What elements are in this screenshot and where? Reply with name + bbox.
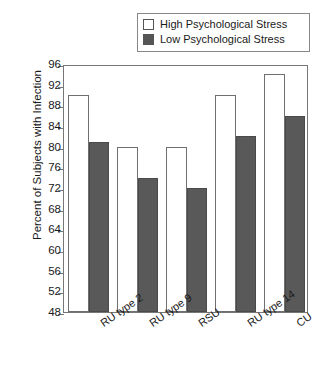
y-axis-tick-label: 60 [48, 244, 61, 256]
bar-low-stress [187, 188, 208, 312]
legend-swatch-high-stress-icon [143, 19, 154, 30]
bar-high-stress [166, 147, 187, 312]
chart-legend: High Psychological Stress Low Psychologi… [137, 13, 310, 52]
legend-label-high-stress: High Psychological Stress [160, 18, 287, 31]
y-axis-tick-label: 92 [48, 79, 61, 91]
legend-item-low-stress: Low Psychological Stress [143, 32, 304, 47]
legend-label-low-stress: Low Psychological Stress [160, 33, 285, 46]
y-axis-tick-label: 84 [48, 120, 61, 132]
bar-low-stress [138, 178, 159, 312]
legend-swatch-low-stress-icon [143, 34, 154, 45]
y-axis-tick-label: 64 [48, 223, 61, 235]
plot-inner [64, 66, 307, 312]
bar-high-stress [264, 74, 285, 312]
y-axis-tick-label: 52 [48, 285, 61, 297]
bar-high-stress [215, 95, 236, 312]
y-axis-tick-label: 96 [48, 58, 61, 70]
bar-high-stress [117, 147, 138, 312]
y-axis-tick-label: 56 [48, 265, 61, 277]
y-axis-tick-label: 76 [48, 161, 61, 173]
legend-item-high-stress: High Psychological Stress [143, 17, 304, 32]
y-axis-tick-label: 88 [48, 99, 61, 111]
y-axis-tick-label: 68 [48, 203, 61, 215]
bar-low-stress [236, 136, 257, 312]
plot-area: 96928884807672686460565248 [63, 65, 308, 313]
y-axis-tick-label: 48 [48, 306, 61, 318]
bar-high-stress [68, 95, 89, 312]
y-axis-tick-label: 80 [48, 141, 61, 153]
bar-chart-figure: High Psychological Stress Low Psychologi… [0, 0, 324, 381]
y-axis-title: Percent of Subjects with Infection [31, 25, 43, 285]
bar-low-stress [285, 116, 306, 312]
y-axis-tick-label: 72 [48, 182, 61, 194]
bar-low-stress [89, 142, 110, 313]
